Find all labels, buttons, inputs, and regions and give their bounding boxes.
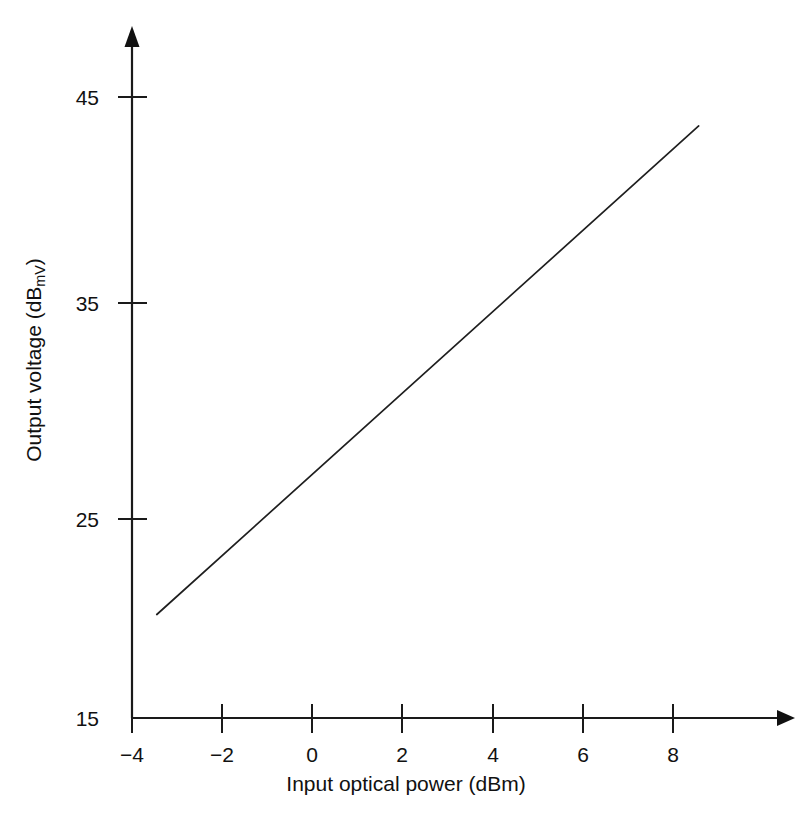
chart-figure: 45 35 25 15 −4 −2 0 2 4 6 8 Input optica… [0, 0, 812, 837]
series-0-path [157, 126, 699, 615]
x-tick-label-6: 6 [577, 744, 589, 765]
x-axis-arrowhead [777, 710, 795, 726]
x-tick-label-2: 2 [396, 744, 408, 765]
y-tick-label-35: 35 [55, 293, 99, 314]
x-axis-title-text: Input optical power (dBm) [286, 772, 525, 795]
y-axis-title: Output voltage (dBmV) [22, 258, 46, 462]
data-series-line [157, 126, 699, 615]
y-axis-title-subscript: mV [32, 265, 48, 286]
plot-canvas [0, 0, 812, 837]
x-tick-label-0: 0 [306, 744, 318, 765]
y-axis [118, 26, 147, 718]
x-axis [132, 704, 795, 733]
y-axis-title-prefix: Output voltage (dB [22, 287, 45, 462]
y-tick-label-15: 15 [55, 708, 99, 729]
x-tick-label-8: 8 [667, 744, 679, 765]
y-tick-label-45: 45 [55, 87, 99, 108]
y-axis-arrowhead [125, 26, 140, 47]
x-axis-title: Input optical power (dBm) [0, 772, 812, 796]
y-axis-title-container: Output voltage (dBmV) [14, 0, 54, 720]
x-tick-label-minus2: −2 [210, 744, 234, 765]
x-tick-label-4: 4 [487, 744, 499, 765]
x-tick-label-minus4: −4 [120, 744, 144, 765]
y-tick-label-25: 25 [55, 509, 99, 530]
